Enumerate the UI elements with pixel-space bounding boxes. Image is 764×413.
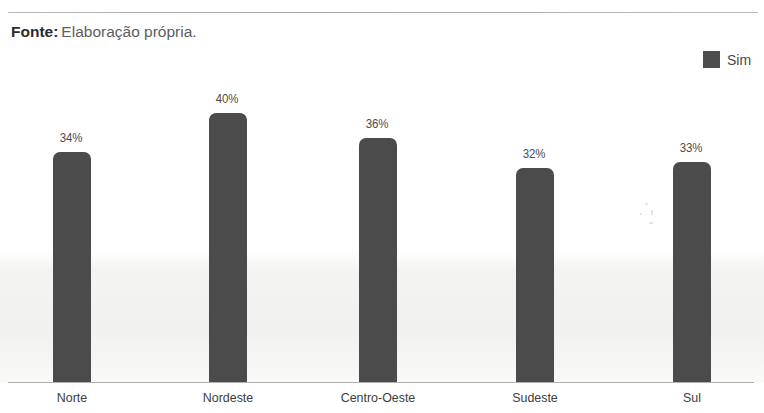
bar-value-label: 32% bbox=[512, 146, 556, 161]
bar-sudeste bbox=[516, 168, 554, 382]
x-axis-line bbox=[8, 382, 754, 383]
scanned-page: Fonte:Elaboração própria. Sim 34% Norte … bbox=[0, 0, 764, 413]
category-label-nordeste: Nordeste bbox=[191, 390, 265, 405]
bar-value-label: 36% bbox=[355, 116, 399, 131]
category-label-centro-oeste: Centro-Oeste bbox=[334, 390, 422, 405]
category-label-sudeste: Sudeste bbox=[500, 390, 570, 405]
bar-nordeste bbox=[209, 113, 247, 382]
bar-centro-oeste bbox=[359, 138, 397, 382]
bar-norte bbox=[53, 152, 91, 382]
bar-sul bbox=[673, 162, 711, 382]
category-label-norte: Norte bbox=[40, 390, 104, 405]
category-label-sul: Sul bbox=[663, 390, 720, 405]
bar-value-label: 40% bbox=[205, 91, 249, 106]
bar-chart: 34% Norte 40% Nordeste 36% Centro-Oeste … bbox=[0, 0, 764, 413]
bar-value-label: 33% bbox=[669, 140, 713, 155]
bar-value-label: 34% bbox=[49, 130, 93, 145]
